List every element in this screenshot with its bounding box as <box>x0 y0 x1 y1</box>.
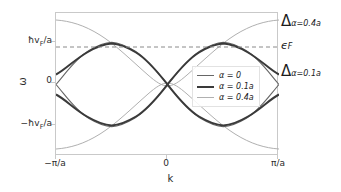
legend-label-alpha-0.4a: α = 0.4a <box>219 93 254 102</box>
legend-item-alpha-0.1a[interactable]: α = 0.1a <box>197 81 254 92</box>
ytick-top-tail: /a <box>43 35 52 45</box>
band-structure-figure: ħvF/a 0 −ħvF/a −π/a 0 π/a k ω Δα=0.4a ϵF… <box>0 0 341 192</box>
legend-item-alpha-0.4a[interactable]: α = 0.4a <box>197 92 254 103</box>
legend-swatch-alpha-0 <box>197 75 214 76</box>
legend-swatch-alpha-0.1a <box>197 86 214 88</box>
xtick-label-minus-pi-a: −π/a <box>35 159 75 168</box>
annotation-fermi-level: ϵF <box>281 40 292 51</box>
ytick-zero-main: 0 <box>46 75 52 85</box>
band-0.4a-upper <box>56 20 168 86</box>
gap-04-subscript: α=0.4a <box>291 19 321 28</box>
ytick-label-zero: 0 <box>46 76 52 85</box>
gap-01-symbol: Δ <box>281 62 291 80</box>
x-axis-label: k <box>0 173 341 184</box>
ytick-bottom-tail: /a <box>43 118 52 128</box>
legend-item-alpha-0[interactable]: α = 0 <box>197 70 254 81</box>
fermi-symbol: ϵ <box>281 39 288 52</box>
xtick-label-pi-a: π/a <box>258 159 298 168</box>
ytick-label-minus-hbar-vf-a: −ħvF/a <box>21 119 52 130</box>
band-0.4a-lower <box>56 83 168 149</box>
gap-01-subscript: α=0.1a <box>291 69 321 78</box>
annotation-gap-alpha-0.4a: Δα=0.4a <box>281 14 321 29</box>
legend-label-alpha-0: α = 0 <box>219 71 241 80</box>
fermi-subscript: F <box>288 42 293 51</box>
ytick-bottom-main: −ħv <box>21 118 40 128</box>
gap-04-symbol: Δ <box>281 12 291 30</box>
ytick-top-main: ħv <box>28 35 40 45</box>
xtick-label-zero: 0 <box>146 159 186 168</box>
legend-swatch-alpha-0.4a <box>197 97 214 98</box>
ytick-label-hbar-vf-a: ħvF/a <box>28 36 52 47</box>
legend: α = 0 α = 0.1a α = 0.4a <box>192 66 260 107</box>
y-axis-label: ω <box>17 77 28 85</box>
annotation-gap-alpha-0.1a: Δα=0.1a <box>281 64 321 79</box>
legend-label-alpha-0.1a: α = 0.1a <box>219 82 254 91</box>
